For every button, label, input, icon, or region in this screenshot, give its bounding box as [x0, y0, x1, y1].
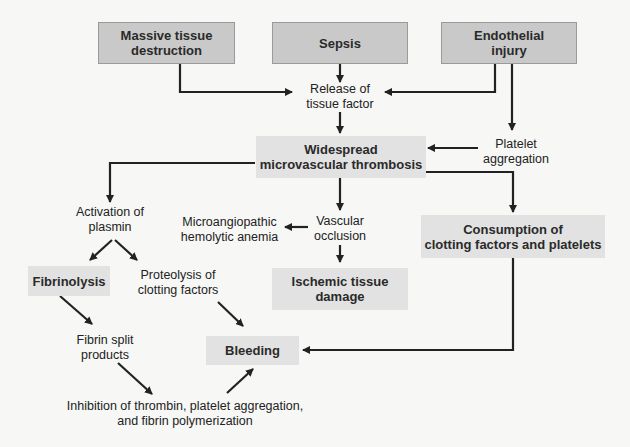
node-platelet-aggregation: Platelet aggregation [470, 137, 562, 167]
label-line: Ischemic tissue [292, 274, 389, 289]
node-label: Sepsis [319, 36, 361, 51]
label-line: Microangiopathic [172, 215, 287, 230]
label-line: Platelet [470, 137, 562, 152]
label-line: Vascular [305, 214, 375, 229]
node-widespread-microvascular-thrombosis: Widespread microvascular thrombosis [256, 136, 426, 178]
node-label: Massive tissue destruction [117, 28, 217, 58]
label-line: aggregation [470, 152, 562, 167]
node-massive-tissue-destruction: Massive tissue destruction [98, 22, 235, 64]
node-inhibition: Inhibition of thrombin, platelet aggrega… [60, 399, 310, 429]
label-line: Widespread [304, 142, 378, 157]
label-line: microvascular thrombosis [260, 157, 423, 172]
label-line: tissue factor [290, 97, 390, 112]
node-consumption-of-clotting-factors: Consumption of clotting factors and plat… [421, 215, 605, 258]
label-line: Fibrin split [65, 333, 145, 348]
label-line: occlusion [305, 229, 375, 244]
label-line: Consumption of [463, 222, 563, 237]
node-ischemic-tissue-damage: Ischemic tissue damage [272, 268, 408, 310]
node-release-of-tissue-factor: Release of tissue factor [290, 82, 390, 112]
node-label: Fibrinolysis [33, 274, 106, 289]
node-sepsis: Sepsis [272, 22, 408, 64]
label-line: clotting factors [128, 283, 228, 298]
label-line: Inhibition of thrombin, platelet aggrega… [60, 399, 310, 414]
label-line: Activation of [60, 205, 160, 220]
node-label: Bleeding [225, 343, 280, 358]
label-line: and fibrin polymerization [60, 414, 310, 429]
node-bleeding: Bleeding [206, 336, 299, 365]
node-activation-of-plasmin: Activation of plasmin [60, 205, 160, 235]
node-fibrin-split-products: Fibrin split products [65, 333, 145, 363]
node-label: Endothelial injury [469, 28, 549, 58]
label-line: Proteolysis of [128, 268, 228, 283]
node-proteolysis-of-clotting-factors: Proteolysis of clotting factors [128, 268, 228, 298]
node-endothelial-injury: Endothelial injury [441, 22, 577, 64]
label-line: clotting factors and platelets [425, 237, 602, 252]
label-line: hemolytic anemia [172, 230, 287, 245]
node-vascular-occlusion: Vascular occlusion [305, 214, 375, 244]
label-line: products [65, 348, 145, 363]
label-line: plasmin [60, 220, 160, 235]
label-line: damage [315, 289, 364, 304]
node-fibrinolysis: Fibrinolysis [28, 266, 110, 296]
node-microangiopathic-hemolytic-anemia: Microangiopathic hemolytic anemia [172, 215, 287, 245]
label-line: Release of [290, 82, 390, 97]
